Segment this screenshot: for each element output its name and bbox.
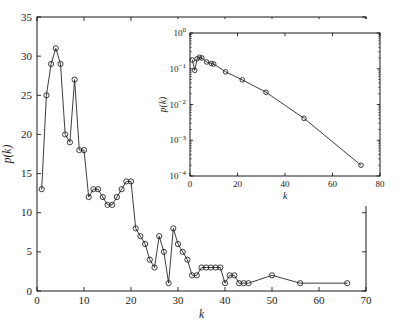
svg-text:10: 10 xyxy=(21,206,33,218)
main-x-axis-label: k xyxy=(199,308,205,320)
svg-text:40: 40 xyxy=(220,294,232,306)
svg-text:80: 80 xyxy=(376,179,386,189)
svg-text:20: 20 xyxy=(126,294,138,306)
degree-distribution-chart: 010203040506070 05101520253035 k p(k) 02… xyxy=(0,0,405,336)
svg-text:60: 60 xyxy=(328,179,338,189)
svg-text:50: 50 xyxy=(267,294,279,306)
svg-text:30: 30 xyxy=(21,50,33,62)
svg-text:0: 0 xyxy=(34,294,40,306)
inset-y-axis-label: p(k) xyxy=(158,97,169,113)
svg-text:0: 0 xyxy=(27,285,33,297)
svg-text:70: 70 xyxy=(361,294,373,306)
svg-text:0: 0 xyxy=(188,179,193,189)
svg-text:40: 40 xyxy=(281,179,291,189)
svg-text:20: 20 xyxy=(21,128,33,140)
figure-container: 010203040506070 05101520253035 k p(k) 02… xyxy=(0,0,405,336)
main-y-tick-labels: 05101520253035 xyxy=(21,11,33,297)
svg-text:10: 10 xyxy=(79,294,91,306)
svg-text:5: 5 xyxy=(27,245,33,257)
inset-axes: 020406080 10−410−310−210−1100 k p(k) xyxy=(156,19,394,206)
svg-text:60: 60 xyxy=(314,294,326,306)
svg-text:35: 35 xyxy=(21,11,33,23)
svg-text:30: 30 xyxy=(173,294,185,306)
svg-text:20: 20 xyxy=(233,179,243,189)
svg-text:25: 25 xyxy=(21,89,33,101)
svg-text:15: 15 xyxy=(21,167,33,179)
main-x-tick-labels: 010203040506070 xyxy=(34,294,372,306)
main-y-axis-label: p(k) xyxy=(1,145,14,165)
